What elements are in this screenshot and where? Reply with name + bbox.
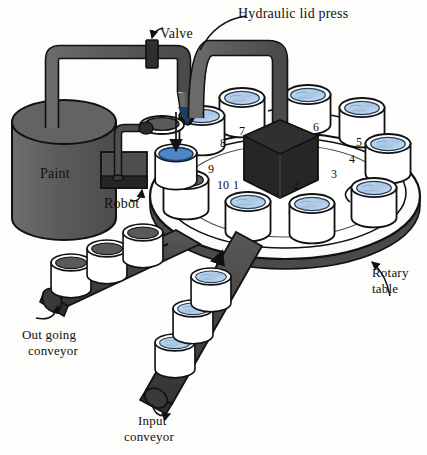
can-station-2 (289, 194, 334, 243)
station-number-6: 6 (309, 120, 323, 135)
outgoing-conveyor-label-line1: Out going (22, 328, 76, 343)
station-number-3: 3 (327, 167, 341, 182)
can-input-1 (191, 268, 231, 312)
station-number-1: 1 (229, 178, 243, 193)
can-outgoing-2 (87, 240, 127, 284)
input-conveyor-label-line1: Input (138, 414, 166, 429)
process-diagram-svg (0, 0, 427, 455)
can-outgoing-1 (123, 224, 163, 268)
station-number-4: 4 (345, 152, 359, 167)
robot-label: Robot (104, 196, 139, 212)
station-number-2: 2 (289, 178, 303, 193)
station-number-8: 8 (216, 136, 230, 151)
valve-label: Valve (160, 26, 193, 42)
outgoing-conveyor-label-line2: conveyor (28, 344, 78, 359)
can-station-1 (225, 192, 270, 241)
station-number-9: 9 (204, 162, 218, 177)
rotary-table-label-line1: Rotary (372, 266, 409, 281)
hydraulic-lid-press-label: Hydraulic lid press (238, 6, 348, 22)
diagram-canvas: Valve Hydraulic lid press Paint Robot Ro… (0, 0, 427, 455)
station-number-10: 10 (216, 178, 230, 193)
can-station-3 (351, 178, 396, 227)
paint-tank-label: Paint (40, 166, 70, 182)
valve (146, 40, 158, 68)
rotary-table-label-line2: table (372, 282, 398, 297)
station-number-7: 7 (235, 124, 249, 139)
station-number-5: 5 (352, 135, 366, 150)
input-conveyor-label-line2: conveyor (124, 430, 174, 445)
can-station-4 (365, 134, 410, 183)
can-outgoing-3 (51, 254, 91, 298)
